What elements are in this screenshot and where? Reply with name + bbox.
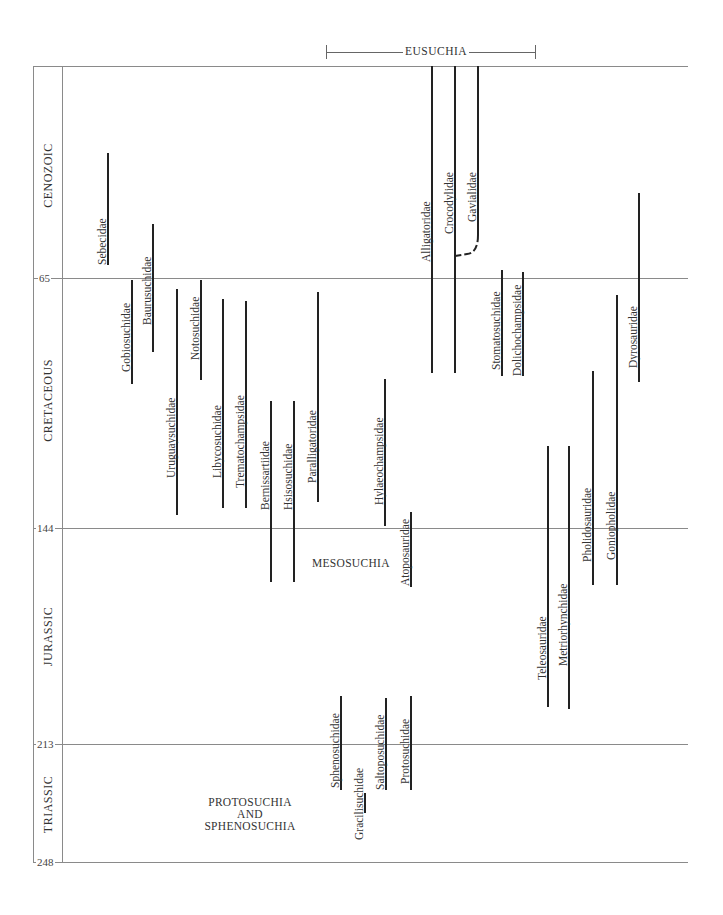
gavialidae-connector [0, 0, 723, 915]
